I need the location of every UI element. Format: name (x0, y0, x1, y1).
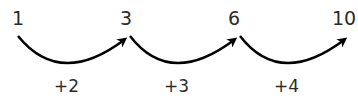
step-label-2: +3 (164, 76, 189, 96)
step-label-3: +4 (274, 76, 299, 96)
step-label-1: +2 (54, 76, 79, 96)
jump-arrow-3 (240, 36, 344, 63)
jump-arrow-2 (130, 36, 234, 63)
jump-arrow-1 (18, 36, 124, 63)
